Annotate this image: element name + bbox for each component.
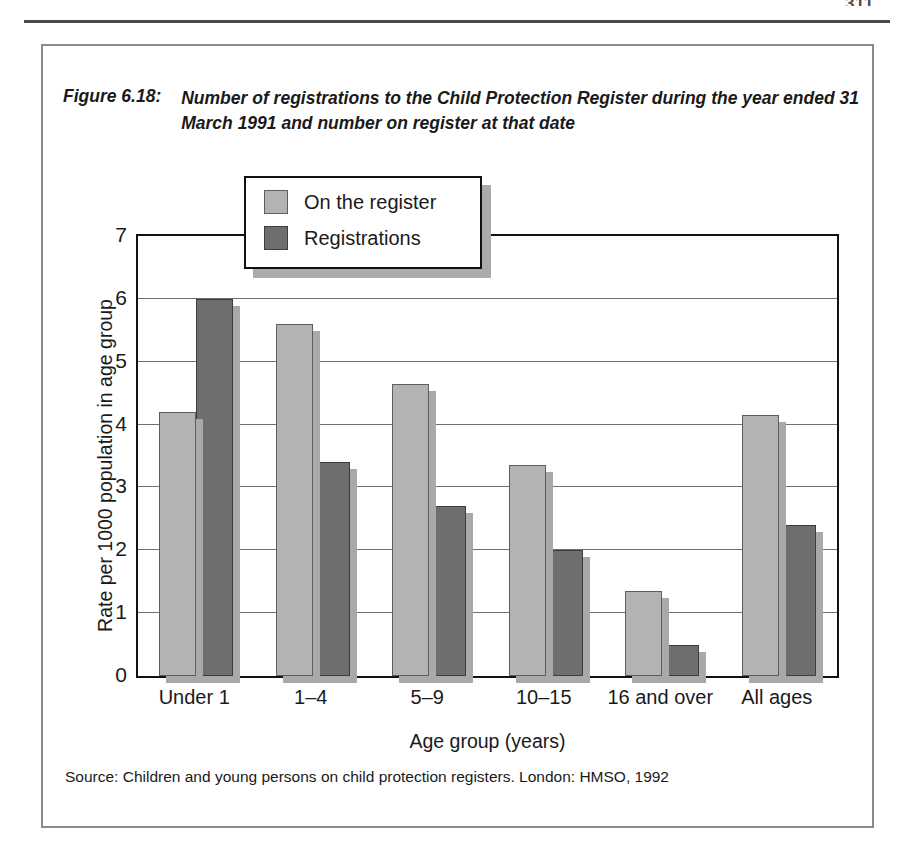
y-tick-label: 7 [97,224,127,245]
x-tick-label: Under 1 [159,686,230,709]
legend-item-registrations: Registrations [264,226,421,250]
x-tick-label: 16 and over [607,686,713,709]
bar-group [721,236,838,676]
bar-group [604,236,721,676]
x-axis-tick-labels: Under 11–45–910–1516 and overAll ages [136,686,839,716]
bar-body [742,415,779,676]
bar-on-the-register [742,415,779,676]
x-tick-label: 10–15 [516,686,572,709]
bar-on-the-register [276,324,313,676]
legend: On the register Registrations [244,176,482,269]
legend-label-registrations: Registrations [304,227,421,250]
page-header: 311 [0,0,912,26]
source-note: Source: Children and young persons on ch… [65,768,669,786]
y-tick-label: 3 [97,475,127,496]
bar-body [392,384,429,676]
x-axis-title: Age group (years) [136,730,839,753]
bar-body [625,591,662,676]
y-tick-label: 6 [97,286,127,307]
y-tick-label: 5 [97,349,127,370]
bar-body [509,465,546,676]
bar-group [371,236,488,676]
bars-layer [138,236,837,676]
chart-canvas: Rate per 1000 population in age group 01… [43,46,876,830]
plot-area [136,234,839,678]
page-number: 311 [845,0,874,6]
legend-swatch-icon-registrations [264,226,288,250]
figure-container: Figure 6.18: Number of registrations to … [41,44,874,828]
legend-swatch-icon-on-the-register [264,190,288,214]
x-tick-label: 5–9 [411,686,444,709]
y-tick-label: 4 [97,412,127,433]
bar-group [255,236,372,676]
header-rule [24,20,890,23]
legend-item-on-the-register: On the register [264,190,436,214]
bar-on-the-register [392,384,429,676]
y-axis-tick-labels: 01234567 [93,234,127,674]
y-tick-label: 0 [97,664,127,685]
x-tick-label: 1–4 [294,686,327,709]
legend-label-on-the-register: On the register [304,191,436,214]
bar-on-the-register [625,591,662,676]
bar-body [159,412,196,676]
y-tick-label: 2 [97,538,127,559]
legend-box: On the register Registrations [244,176,482,269]
bar-group [488,236,605,676]
bar-on-the-register [509,465,546,676]
bar-body [276,324,313,676]
x-tick-label: All ages [741,686,812,709]
bar-on-the-register [159,412,196,676]
bar-group [138,236,255,676]
y-tick-label: 1 [97,601,127,622]
